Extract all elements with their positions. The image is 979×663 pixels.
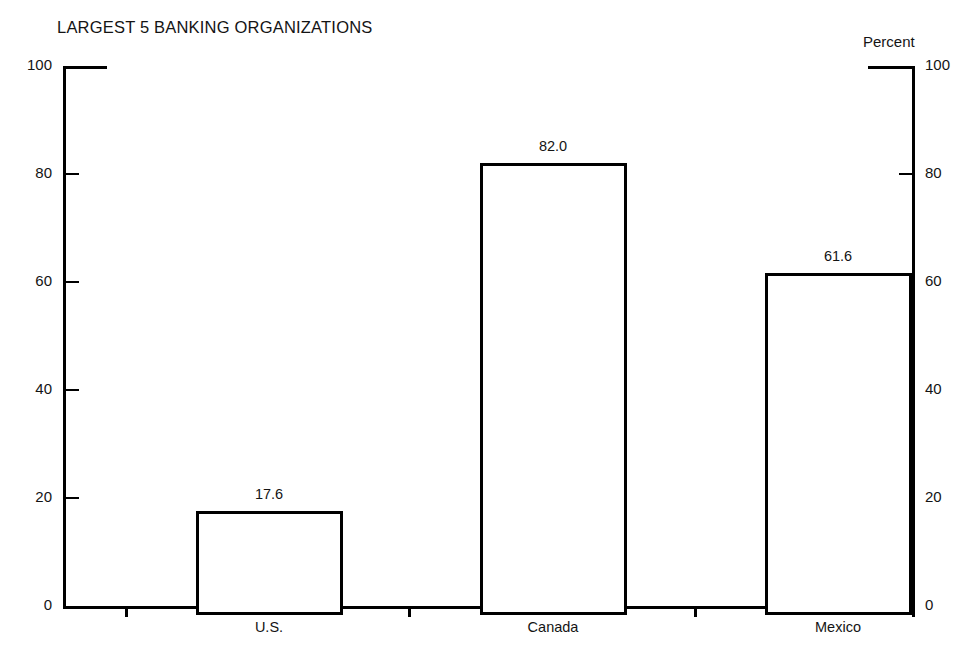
bar-value-label-u-s: 17.6 (209, 486, 329, 502)
y-tick-left-40 (66, 389, 79, 391)
y-label-left-80: 80 (8, 164, 52, 181)
y-label-right-80: 80 (925, 164, 969, 181)
y-label-right-20: 20 (925, 488, 969, 505)
y-label-left-40: 40 (8, 380, 52, 397)
y-axis-unit-label: Percent (863, 33, 915, 50)
category-separator-3 (912, 606, 915, 617)
y-axis-left-labels: 100806040200 (0, 66, 52, 609)
y-label-left-100: 100 (8, 56, 52, 73)
bar-u-s (196, 511, 343, 615)
y-axis-right-labels: 100806040200 (925, 66, 979, 609)
y-label-left-20: 20 (8, 488, 52, 505)
bar-value-label-mexico: 61.6 (778, 248, 898, 264)
category-separator-2 (694, 606, 697, 617)
bar-canada (480, 163, 627, 615)
chart-figure: LARGEST 5 BANKING ORGANIZATIONS Percent … (0, 0, 979, 663)
category-separator-0 (125, 606, 128, 617)
bar-mexico (765, 273, 912, 615)
bar-value-label-canada: 82.0 (493, 138, 613, 154)
y-axis-left-line (63, 66, 66, 609)
plot-area: 17.682.061.6 (63, 66, 915, 609)
top-frame-right-segment (868, 66, 915, 69)
y-axis-right-line (912, 66, 915, 609)
y-label-left-0: 0 (8, 596, 52, 613)
category-label-u-s: U.S. (189, 619, 349, 635)
y-tick-left-20 (66, 497, 79, 499)
category-label-mexico: Mexico (758, 619, 918, 635)
category-separator-1 (408, 606, 411, 617)
category-label-canada: Canada (473, 619, 633, 635)
y-label-left-60: 60 (8, 272, 52, 289)
y-tick-left-80 (66, 173, 79, 175)
chart-title: LARGEST 5 BANKING ORGANIZATIONS (57, 18, 373, 37)
y-label-right-40: 40 (925, 380, 969, 397)
y-tick-left-60 (66, 281, 79, 283)
y-label-right-100: 100 (925, 56, 969, 73)
y-label-right-0: 0 (925, 596, 969, 613)
y-tick-right-80 (899, 173, 912, 175)
y-label-right-60: 60 (925, 272, 969, 289)
top-frame-left-segment (63, 66, 107, 69)
